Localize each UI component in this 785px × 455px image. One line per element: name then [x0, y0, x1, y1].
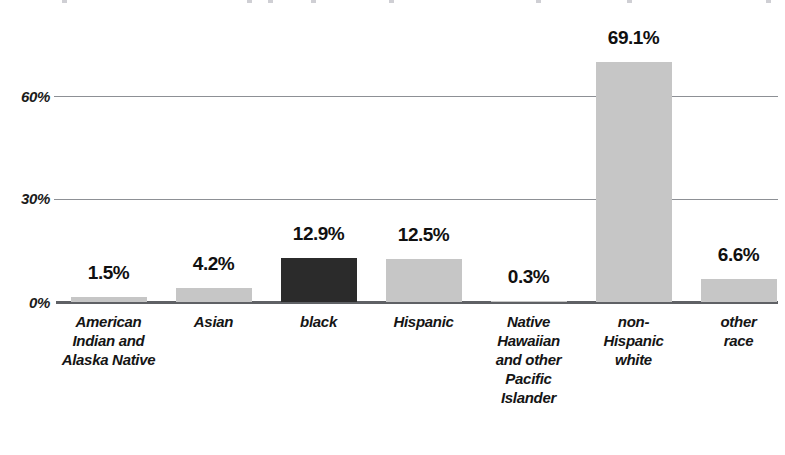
x-label-line: white [572, 350, 695, 369]
bar-other-race [701, 279, 777, 302]
bar-value-6: 6.6% [718, 244, 759, 266]
y-tick-label-30: 30% [0, 190, 50, 207]
bar-non-hispanic-white [596, 62, 672, 302]
x-label-line: other [677, 312, 785, 331]
bar-american-indian-and-alaska-native [71, 297, 147, 302]
bar-value-5: 69.1% [608, 27, 659, 49]
x-label-line: Islander [467, 388, 590, 407]
bar-native-hawaiian-and-other-pacific-islander [491, 301, 567, 302]
bar-value-4: 0.3% [508, 266, 549, 288]
y-tick-label-60: 60% [0, 88, 50, 105]
bar-slot-3: 12.5% [371, 0, 476, 302]
bar-asian [176, 288, 252, 302]
bar-value-2: 12.9% [293, 223, 344, 245]
bar-slot-6: 6.6% [686, 0, 785, 302]
bar-slot-0: 1.5% [56, 0, 161, 302]
x-label-line: Indian and [40, 331, 177, 350]
x-label-line: race [677, 331, 785, 350]
x-label-line: Alaska Native [40, 350, 177, 369]
bar-black [281, 258, 357, 302]
bar-slot-5: 69.1% [581, 0, 686, 302]
bar-slot-1: 4.2% [161, 0, 266, 302]
bar-value-0: 1.5% [88, 262, 129, 284]
bar-value-3: 12.5% [398, 224, 449, 246]
bar-slot-4: 0.3% [476, 0, 581, 302]
bar-chart: 60% 30% 0% 1.5% 4.2% 12.9% 12.5% [0, 0, 785, 455]
bar-value-1: 4.2% [193, 253, 234, 275]
x-label-other-race: other race [677, 312, 785, 350]
y-tick-label-0: 0% [0, 294, 50, 311]
bar-hispanic [386, 259, 462, 302]
bar-slot-2: 12.9% [266, 0, 371, 302]
x-label-line: Pacific [467, 369, 590, 388]
